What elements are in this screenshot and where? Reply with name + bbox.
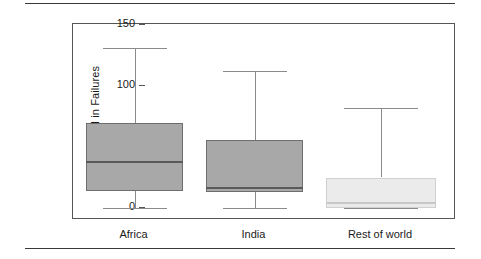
y-tick-label: 100 bbox=[117, 78, 135, 90]
bottom-divider-rule bbox=[25, 248, 455, 249]
lower-whisker-cap bbox=[344, 208, 418, 209]
upper-whisker-line bbox=[255, 71, 256, 139]
upper-whisker-cap bbox=[103, 48, 167, 49]
y-tick-mark bbox=[139, 85, 145, 86]
figure: Percent API in Failures 050100150 Africa… bbox=[0, 0, 481, 259]
lower-whisker-cap bbox=[103, 208, 167, 209]
box-iqr bbox=[206, 140, 303, 192]
x-axis-label-rest-of-world: Rest of world bbox=[310, 228, 450, 240]
lower-whisker-cap bbox=[223, 208, 287, 209]
upper-whisker-cap bbox=[223, 71, 287, 72]
median-line bbox=[206, 187, 303, 189]
x-axis-label-africa: Africa bbox=[64, 228, 204, 240]
upper-whisker-line bbox=[381, 108, 382, 178]
top-divider-rule bbox=[25, 3, 455, 4]
box-iqr bbox=[86, 123, 183, 191]
plot-area: Percent API in Failures 050100150 bbox=[72, 23, 455, 219]
median-line bbox=[86, 161, 183, 163]
x-axis-label-india: India bbox=[184, 228, 324, 240]
upper-whisker-line bbox=[135, 48, 136, 122]
y-tick-label: 150 bbox=[117, 17, 135, 29]
lower-whisker-line bbox=[135, 191, 136, 208]
y-tick-mark bbox=[139, 24, 145, 25]
median-line bbox=[326, 202, 436, 204]
lower-whisker-line bbox=[255, 192, 256, 208]
upper-whisker-cap bbox=[344, 108, 418, 109]
